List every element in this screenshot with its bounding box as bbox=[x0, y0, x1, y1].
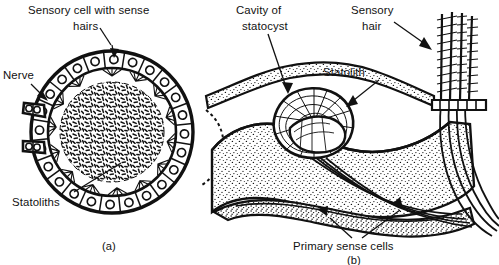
caption-b: (b) bbox=[347, 254, 361, 265]
statolith-b bbox=[274, 86, 354, 158]
label-nerve: Nerve bbox=[3, 69, 34, 81]
statocyst-figure: Sensory cell with sense hairs Nerve Stat… bbox=[0, 0, 499, 265]
label-sensory-hair-line1: Sensory bbox=[351, 4, 394, 16]
label-cavity-line2: statocyst bbox=[242, 20, 289, 32]
statolith-mass-a bbox=[60, 82, 164, 182]
label-cavity-line1: Cavity of bbox=[236, 4, 282, 16]
label-sensory-hair-line2: hair bbox=[362, 20, 382, 32]
label-sensory-cell-line2: hairs bbox=[73, 20, 98, 32]
label-sensory-cell-line1: Sensory cell with sense bbox=[28, 4, 149, 16]
figure-canvas: Sensory cell with sense hairs Nerve Stat… bbox=[0, 0, 499, 265]
label-statoliths: Statoliths bbox=[12, 196, 60, 208]
label-primary-sense-cells: Primary sense cells bbox=[293, 240, 394, 252]
caption-a: (a) bbox=[102, 240, 116, 252]
label-statolith: Statolith bbox=[323, 66, 365, 78]
